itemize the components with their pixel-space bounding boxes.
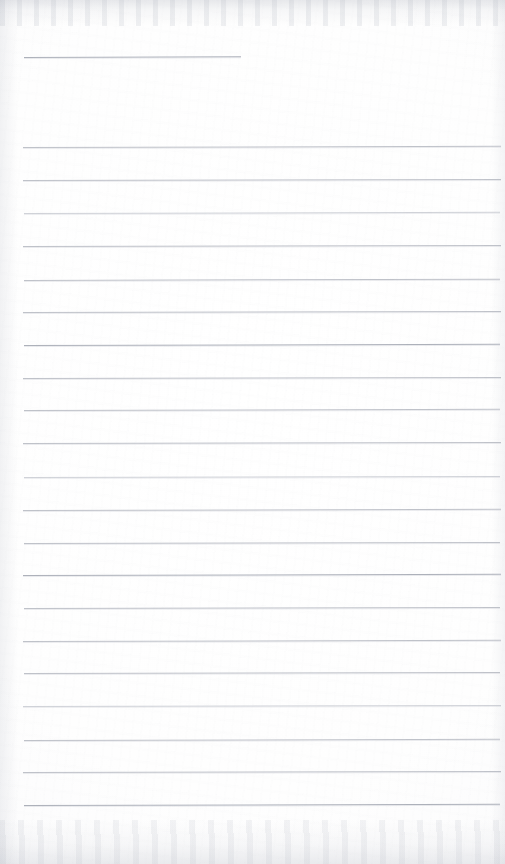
- ruled-line: [23, 442, 501, 444]
- ruled-line: [24, 739, 500, 741]
- ruled-line: [24, 344, 500, 346]
- ruled-line: [23, 311, 501, 313]
- ruled-line: [24, 804, 500, 806]
- ruled-line: [24, 212, 500, 214]
- ruled-line: [23, 245, 501, 247]
- ruled-line: [24, 409, 500, 411]
- ruled-line: [23, 771, 501, 773]
- ruled-line: [23, 179, 501, 181]
- ruled-line: [23, 509, 501, 511]
- ruled-line: [24, 56, 241, 58]
- ruled-line: [23, 640, 501, 642]
- ruled-line: [23, 377, 501, 379]
- ruled-line: [23, 574, 501, 576]
- ruled-line: [24, 542, 500, 544]
- ruled-line: [23, 146, 501, 148]
- ruled-line: [23, 705, 501, 707]
- ruled-line: [24, 607, 500, 609]
- ruled-line: [24, 672, 500, 674]
- ruled-lines-layer: [0, 0, 505, 864]
- notepad-page: [0, 0, 505, 864]
- ruled-line: [24, 476, 500, 478]
- ruled-line: [24, 279, 500, 281]
